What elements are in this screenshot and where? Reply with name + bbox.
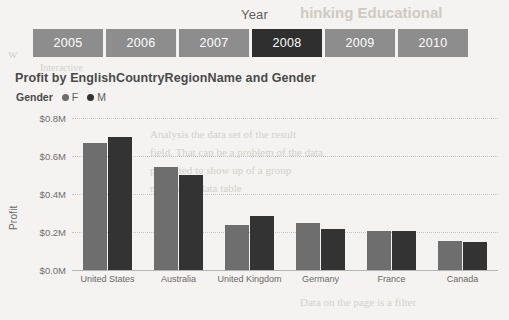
slicer-tile-2005[interactable]: 2005 xyxy=(33,29,103,57)
bar-group-canada xyxy=(438,118,487,270)
slicer-title: Year xyxy=(0,7,509,22)
y-tick-label: $0.2M xyxy=(20,227,66,238)
slicer-tile-2006[interactable]: 2006 xyxy=(106,29,176,57)
bar-series-area: United StatesAustraliaUnited KingdomGerm… xyxy=(72,62,498,320)
bar-group-united-kingdom xyxy=(225,118,274,270)
plot-area: Profit $0.8M$0.6M$0.4M$0.2M$0.0M United … xyxy=(0,62,509,320)
y-tick-label: $0.6M xyxy=(20,151,66,162)
bar-group-united-states xyxy=(83,118,132,270)
bar-F-france[interactable] xyxy=(367,231,391,270)
background-text-line: w xyxy=(8,46,17,62)
slicer-tile-2010[interactable]: 2010 xyxy=(398,29,468,57)
bar-M-france[interactable] xyxy=(392,231,416,270)
slicer-tile-row: 200520062007200820092010 xyxy=(33,29,468,57)
bar-M-germany[interactable] xyxy=(321,229,345,270)
bar-M-australia[interactable] xyxy=(179,175,203,270)
bar-M-united-states[interactable] xyxy=(108,137,132,270)
bar-M-canada[interactable] xyxy=(463,242,487,270)
bar-F-canada[interactable] xyxy=(438,241,462,270)
y-tick-label: $0.8M xyxy=(20,113,66,124)
slicer-tile-2009[interactable]: 2009 xyxy=(325,29,395,57)
profit-chart-card: Profit by EnglishCountryRegionName and G… xyxy=(0,62,509,320)
screenshot-root: hinking EducationalwInteractiveAnalysis … xyxy=(0,0,509,320)
y-tick-label: $0.4M xyxy=(20,189,66,200)
slicer-tile-2007[interactable]: 2007 xyxy=(179,29,249,57)
bar-group-germany xyxy=(296,118,345,270)
bar-group-australia xyxy=(154,118,203,270)
y-axis-ticks: $0.8M$0.6M$0.4M$0.2M$0.0M xyxy=(20,62,66,320)
bar-F-australia[interactable] xyxy=(154,167,178,270)
x-axis-label-canada: Canada xyxy=(417,274,509,285)
bar-group-france xyxy=(367,118,416,270)
bar-F-united-kingdom[interactable] xyxy=(225,225,249,270)
bar-M-united-kingdom[interactable] xyxy=(250,216,274,270)
y-tick-label: $0.0M xyxy=(20,265,66,276)
bar-F-united-states[interactable] xyxy=(83,143,107,270)
bar-F-germany[interactable] xyxy=(296,223,320,271)
y-axis-title: Profit xyxy=(8,205,19,230)
slicer-tile-2008[interactable]: 2008 xyxy=(252,29,322,57)
